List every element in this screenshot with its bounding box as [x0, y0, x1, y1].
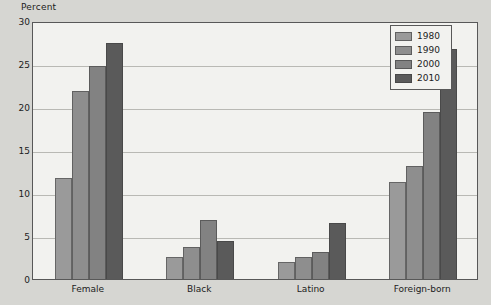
bar	[278, 262, 295, 279]
legend-label: 1980	[417, 31, 440, 41]
y-axis-tick-label: 20	[4, 103, 30, 113]
legend-swatch-icon	[395, 46, 412, 55]
bar-group	[256, 23, 368, 279]
bar-group	[33, 23, 145, 279]
bar-chart: Percent 302520151050 FemaleBlackLatinoFo…	[0, 0, 491, 305]
legend-swatch-icon	[395, 74, 412, 83]
x-axis-tick-label: Latino	[297, 284, 325, 294]
bar	[295, 257, 312, 279]
legend-swatch-icon	[395, 32, 412, 41]
bar	[423, 112, 440, 279]
bar-group	[145, 23, 257, 279]
bar	[217, 241, 234, 279]
x-axis-tick-label: Foreign-born	[394, 284, 451, 294]
y-axis-tick-label: 25	[4, 60, 30, 70]
legend-label: 2000	[417, 59, 440, 69]
y-axis-tick-label: 0	[4, 275, 30, 285]
y-axis-tick-label: 15	[4, 146, 30, 156]
legend-item: 2000	[395, 57, 447, 71]
bar	[200, 220, 217, 279]
y-axis-tick-label: 10	[4, 189, 30, 199]
legend: 1980199020002010	[390, 25, 452, 90]
legend-swatch-icon	[395, 60, 412, 69]
bar	[106, 43, 123, 279]
y-axis-tick-labels: 302520151050	[0, 22, 30, 280]
y-axis-tick-label: 30	[4, 17, 30, 27]
bar	[166, 257, 183, 279]
bar	[89, 66, 106, 279]
y-axis-tick-label: 5	[4, 232, 30, 242]
legend-label: 1990	[417, 45, 440, 55]
x-axis-tick-label: Female	[71, 284, 104, 294]
bar	[55, 178, 72, 279]
bar	[312, 252, 329, 279]
y-axis-title: Percent	[21, 2, 56, 12]
bar	[406, 166, 423, 279]
bar	[329, 223, 346, 279]
bar	[389, 182, 406, 279]
legend-label: 2010	[417, 73, 440, 83]
x-axis-tick-label: Black	[187, 284, 211, 294]
legend-item: 1980	[395, 29, 447, 43]
bar	[183, 247, 200, 279]
legend-item: 1990	[395, 43, 447, 57]
legend-item: 2010	[395, 71, 447, 85]
bar	[72, 91, 89, 279]
